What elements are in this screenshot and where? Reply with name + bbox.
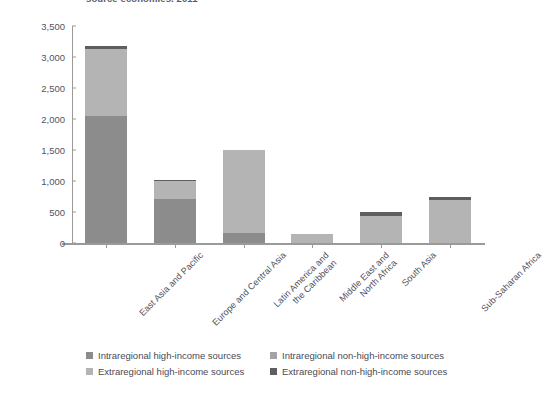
x-axis-tick <box>450 243 451 248</box>
y-tick-mark <box>72 119 76 120</box>
y-tick-mark <box>72 243 76 244</box>
legend-swatch-icon <box>270 368 277 375</box>
legend-item[interactable]: Intraregional high-income sources <box>86 350 270 361</box>
y-axis-tick: 3,500 <box>41 21 72 32</box>
y-axis-tick: 3,000 <box>41 52 72 63</box>
bar-europe-and-central-asia[interactable] <box>154 180 196 243</box>
bar-segment <box>85 49 127 116</box>
legend-label: Extraregional non-high-income sources <box>282 366 447 377</box>
bar-middle-east-and-north-africa[interactable] <box>291 234 333 243</box>
legend-item[interactable]: Extraregional non-high-income sources <box>270 366 476 377</box>
bar-segment <box>291 234 333 243</box>
y-axis-tick: 1,000 <box>41 176 72 187</box>
bar-segment <box>85 116 127 243</box>
x-axis-tick <box>175 243 176 248</box>
x-axis-tick <box>244 243 245 248</box>
bar-segment <box>360 216 402 243</box>
bar-east-asia-and-pacific[interactable] <box>85 46 127 243</box>
y-tick-mark <box>72 181 76 182</box>
x-axis-tick <box>106 243 107 248</box>
y-axis-tick: 1,500 <box>41 145 72 156</box>
legend-swatch-icon <box>270 352 277 359</box>
bar-south-asia[interactable] <box>360 212 402 243</box>
legend-item[interactable]: Intraregional non-high-income sources <box>270 350 476 361</box>
legend-swatch-icon <box>86 352 93 359</box>
x-axis-label: Sub-Saharan Africa <box>479 250 543 314</box>
y-axis-tick: 500 <box>49 207 72 218</box>
bar-segment <box>429 200 471 243</box>
legend-swatch-icon <box>86 368 93 375</box>
plot-area: 05001,0001,5002,0002,5003,0003,500 <box>72 26 484 243</box>
bar-segment <box>154 181 196 199</box>
legend-label: Intraregional high-income sources <box>98 350 241 361</box>
chart-title: source economies, 2011 <box>86 0 416 2</box>
x-axis-label: East Asia and Pacific <box>138 250 207 319</box>
x-axis-line <box>62 243 485 245</box>
x-axis-label: Europe and Central Asia <box>210 250 288 328</box>
y-axis-tick: 2,000 <box>41 114 72 125</box>
chart-legend: Intraregional high-income sourcesIntrare… <box>86 347 476 379</box>
bar-sub-saharan-africa[interactable] <box>429 197 471 243</box>
x-axis-tick <box>381 243 382 248</box>
bar-segment <box>223 150 265 232</box>
legend-item[interactable]: Extraregional high-income sources <box>86 366 270 377</box>
y-tick-mark <box>72 57 76 58</box>
x-axis-label: Middle East andNorth Africa <box>338 250 400 312</box>
legend-label: Intraregional non-high-income sources <box>282 350 444 361</box>
bar-segment <box>154 199 196 243</box>
y-tick-mark <box>72 88 76 89</box>
bar-segment <box>223 233 265 243</box>
bar-latin-america-and-the-caribbean[interactable] <box>223 150 265 243</box>
x-axis-label: South Asia <box>400 250 439 289</box>
y-tick-mark <box>72 150 76 151</box>
y-tick-mark <box>72 212 76 213</box>
legend-label: Extraregional high-income sources <box>98 366 244 377</box>
y-axis-tick: 0 <box>60 238 72 249</box>
y-axis-tick: 2,500 <box>41 83 72 94</box>
x-axis-tick <box>312 243 313 248</box>
y-tick-mark <box>72 26 76 27</box>
